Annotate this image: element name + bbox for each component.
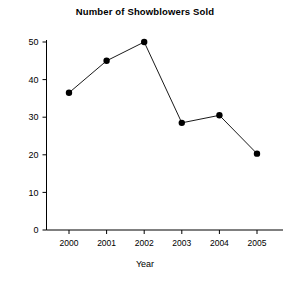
x-axis-tick-label: 2004 xyxy=(210,238,229,248)
data-point-2003 xyxy=(179,120,185,126)
x-axis-tick-label: 2005 xyxy=(248,238,267,248)
x-axis-tick-label: 2000 xyxy=(60,238,79,248)
chart-axes xyxy=(47,40,284,230)
x-axis-tick-label: 2003 xyxy=(172,238,191,248)
line-chart-plot: 01020304050 200020012002200320042005 xyxy=(0,0,290,282)
data-point-2002 xyxy=(141,39,147,45)
y-axis-tick-label: 40 xyxy=(28,75,38,85)
x-axis-tick-label: 2002 xyxy=(135,238,154,248)
x-axis-tick-label: 2001 xyxy=(97,238,116,248)
y-axis-tick-label: 0 xyxy=(33,225,38,235)
data-point-2000 xyxy=(66,90,72,96)
y-axis-tick-label: 10 xyxy=(28,188,38,198)
data-series-line xyxy=(69,42,257,154)
y-axis-tick-label: 50 xyxy=(28,37,38,47)
x-axis-ticks: 200020012002200320042005 xyxy=(60,230,267,248)
chart-container: Number of Showblowers Sold 01020304050 2… xyxy=(0,0,290,282)
data-point-2001 xyxy=(103,58,109,64)
data-point-2005 xyxy=(254,150,260,156)
data-point-markers xyxy=(66,39,260,157)
y-axis-tick-label: 30 xyxy=(28,112,38,122)
data-point-2004 xyxy=(216,112,222,118)
y-axis-ticks: 01020304050 xyxy=(28,37,46,235)
x-axis-title: Year xyxy=(0,259,290,269)
y-axis-tick-label: 20 xyxy=(28,150,38,160)
